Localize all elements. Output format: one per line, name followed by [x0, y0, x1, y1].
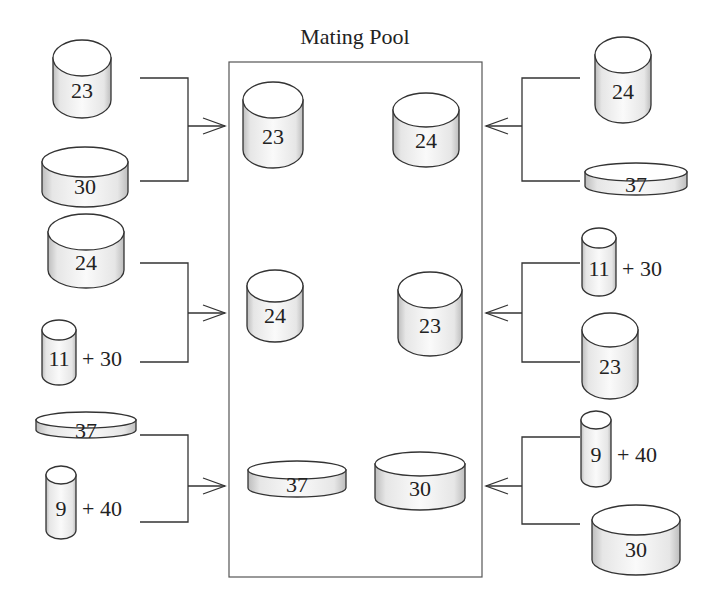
- crossover-connector: [486, 78, 580, 181]
- fitness-value: 24: [612, 79, 634, 104]
- fitness-value: 23: [599, 354, 621, 379]
- crossover-connector: [140, 263, 225, 362]
- fitness-value: 23: [262, 124, 284, 149]
- fitness-value: 23: [419, 313, 441, 338]
- pool-cylinder: 23: [243, 82, 303, 168]
- crossover-connector: [486, 437, 580, 524]
- fitness-value: 30: [409, 476, 431, 501]
- fitness-value: 37: [286, 472, 308, 497]
- parent-cylinder: 30: [42, 147, 128, 207]
- parent-cylinder: 11+ 30: [42, 320, 122, 385]
- fitness-value: 9: [591, 442, 602, 467]
- pool-cylinder: 30: [375, 452, 465, 510]
- parent-cylinder: 9+ 40: [581, 411, 657, 487]
- fitness-value: 9: [56, 496, 67, 521]
- extra-value: + 30: [622, 256, 662, 281]
- fitness-value: 37: [625, 172, 647, 197]
- pool-cylinder: 24: [393, 93, 459, 167]
- fitness-value: 11: [48, 346, 69, 371]
- fitness-value: 24: [264, 303, 286, 328]
- pool-cylinder: 37: [248, 461, 346, 497]
- mating-pool-diagram: Mating Pool 23302411+ 30379+ 40232424233…: [0, 0, 715, 591]
- parent-cylinder: 30: [592, 505, 680, 575]
- mating-pool-title: Mating Pool: [300, 24, 409, 49]
- crossover-connector: [486, 263, 580, 362]
- fitness-value: 30: [625, 537, 647, 562]
- fitness-value: 24: [415, 128, 437, 153]
- fitness-value: 23: [71, 78, 93, 103]
- extra-value: + 30: [82, 346, 122, 371]
- extra-value: + 40: [617, 442, 657, 467]
- fitness-value: 37: [75, 418, 97, 443]
- parent-cylinder: 37: [585, 163, 687, 197]
- fitness-value: 11: [588, 256, 609, 281]
- parent-cylinder: 11+ 30: [582, 228, 662, 296]
- parent-cylinder: 23: [53, 40, 111, 118]
- crossover-connector: [140, 435, 225, 522]
- pool-cylinder: 23: [398, 272, 462, 356]
- pool-cylinder: 24: [247, 270, 303, 342]
- parent-cylinder: 24: [48, 214, 124, 288]
- parent-cylinder: 37: [36, 412, 136, 443]
- parent-cylinder: 9+ 40: [46, 466, 122, 539]
- crossover-connector: [140, 78, 225, 181]
- parent-cylinder: 24: [595, 37, 651, 123]
- fitness-value: 24: [75, 250, 97, 275]
- fitness-value: 30: [74, 174, 96, 199]
- extra-value: + 40: [82, 496, 122, 521]
- parent-cylinder: 23: [582, 313, 638, 399]
